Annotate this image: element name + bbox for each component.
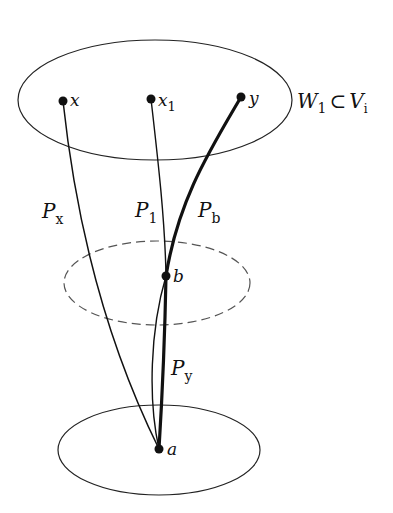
node-a-label: a [167,439,177,459]
node-a [155,445,164,454]
path-p1-label: P1 [134,198,157,226]
graph-diagram: x x1 y b a W1⊂Vi Px P1 Pb Py [0,0,393,513]
node-x [59,97,68,106]
path-py-label: Py [170,356,192,384]
node-b-label: b [173,266,184,286]
node-y [237,93,246,102]
node-x1 [147,95,156,104]
path-pb [166,97,241,276]
node-x1-label: x1 [158,90,176,114]
region-top-label: W1⊂Vi [297,89,368,116]
path-px [63,101,159,449]
path-pb-label: Pb [197,198,220,226]
path-px-label: Px [41,199,63,227]
node-b [162,272,171,281]
node-y-label: y [248,88,259,108]
node-x-label: x [70,90,80,110]
